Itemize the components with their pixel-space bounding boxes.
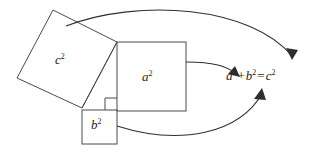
right-angle-marker xyxy=(105,98,117,110)
figure-canvas xyxy=(0,0,325,147)
arrowhead-c-term xyxy=(286,48,298,60)
a-square-label: a2 xyxy=(142,70,153,83)
equation-equals-operator: = xyxy=(256,68,265,83)
c-square-shape xyxy=(17,10,117,108)
pythagorean-diagram: c2 a2 b2 a2+b2=c2 xyxy=(0,0,325,147)
equation-a-exponent: 2 xyxy=(233,68,237,77)
theorem-equation: a2+b2=c2 xyxy=(226,69,275,82)
b-square-label-exponent: 2 xyxy=(98,117,102,126)
a-square-label-exponent: 2 xyxy=(149,69,153,78)
equation-plus-operator: + xyxy=(237,68,246,83)
arrowhead-b-term xyxy=(254,88,266,100)
equation-c-exponent: 2 xyxy=(271,68,275,77)
c-square-label-exponent: 2 xyxy=(61,52,65,61)
c-square-label: c2 xyxy=(55,53,65,66)
arrow-b-square-to-b-term xyxy=(117,92,263,135)
b-square-label: b2 xyxy=(91,118,102,131)
